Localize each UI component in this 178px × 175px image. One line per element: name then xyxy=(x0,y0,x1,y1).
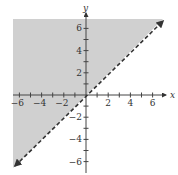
x-tick-label: 2 xyxy=(105,98,111,108)
y-tick-label: 2 xyxy=(76,68,82,78)
inequality-graph: −6−4−2246 642−2−4−6 x y xyxy=(0,0,178,175)
x-tick-label: −6 xyxy=(11,98,25,108)
x-tick-label: −4 xyxy=(33,98,47,108)
x-tick-labels: −6−4−2246 xyxy=(11,98,156,108)
x-tick-label: −2 xyxy=(55,98,68,108)
y-tick-label: −2 xyxy=(69,112,82,122)
y-tick-label: −6 xyxy=(69,157,83,167)
x-tick-label: 6 xyxy=(150,98,156,108)
y-tick-label: 4 xyxy=(76,46,82,56)
y-axis-label: y xyxy=(82,3,89,13)
y-tick-label: 6 xyxy=(76,23,82,33)
x-tick-label: 4 xyxy=(128,98,134,108)
x-axis-label: x xyxy=(170,90,175,100)
y-tick-label: −4 xyxy=(69,134,83,144)
